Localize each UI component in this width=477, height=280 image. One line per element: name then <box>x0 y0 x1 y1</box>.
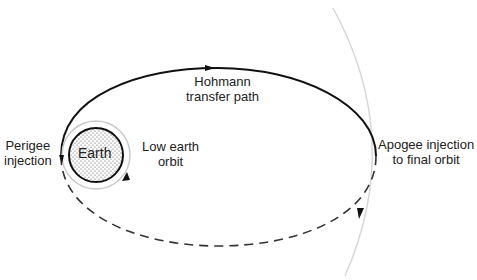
apogee-label: Apogee injection to final orbit <box>378 137 474 167</box>
apogee-line-1: Apogee injection <box>378 137 474 152</box>
perigee-label: Perigee injection <box>4 138 52 168</box>
apogee-line-2: to final orbit <box>378 152 474 167</box>
leo-line-2: orbit <box>142 154 199 169</box>
earth-label: Earth <box>78 146 111 161</box>
hohmann-line-2: transfer path <box>186 89 259 104</box>
final-orbit-arc <box>333 8 372 276</box>
perigee-line-1: Perigee <box>4 138 52 153</box>
hohmann-label: Hohmann transfer path <box>186 74 259 104</box>
final-orbit-arrow-icon <box>357 208 364 219</box>
perigee-line-2: injection <box>4 153 52 168</box>
earth-text: Earth <box>78 145 111 161</box>
leo-line-1: Low earth <box>142 139 199 154</box>
low-earth-orbit-label: Low earth orbit <box>142 139 199 169</box>
transfer-arrow-icon <box>205 65 215 71</box>
hohmann-line-1: Hohmann <box>186 74 259 89</box>
